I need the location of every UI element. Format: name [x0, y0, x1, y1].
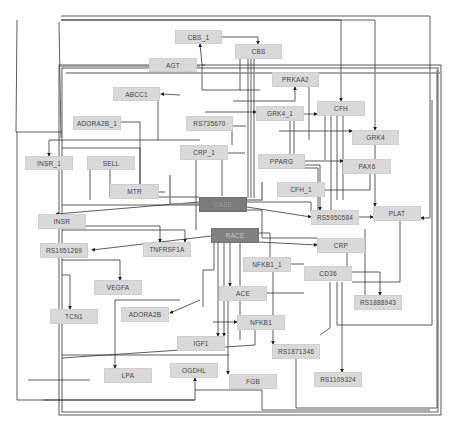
node-adora2b-1[interactable]: ADORA2B_1 — [73, 116, 121, 130]
node-mtr[interactable]: MTR — [110, 184, 159, 199]
node-fgb[interactable]: FGB — [229, 374, 277, 389]
node-rs1888943[interactable]: RS1888943 — [354, 295, 402, 310]
node-label: TNFRSF1A — [149, 246, 184, 253]
node-ace[interactable]: ACE — [219, 286, 267, 301]
node-label: OGDHL — [182, 367, 206, 374]
node-tnfrsf1a[interactable]: TNFRSF1A — [143, 242, 191, 257]
node-label: RS1888943 — [360, 299, 396, 306]
node-lpa[interactable]: LPA — [104, 368, 152, 383]
node-rs5950584[interactable]: RS5950584 — [311, 210, 359, 225]
node-sell[interactable]: SELL — [87, 156, 135, 170]
network-diagram: CBS_1CBSAGTPRKAA2ABCC1CFHADORA2B_1RS7356… — [0, 0, 455, 424]
node-abcc1[interactable]: ABCC1 — [113, 87, 160, 101]
node-case[interactable]: CASE — [199, 197, 247, 212]
node-rs1951269[interactable]: RS1951269 — [40, 243, 88, 258]
node-label: INSR_1 — [37, 160, 61, 167]
node-label: PPARG — [270, 158, 293, 165]
node-label: MTR — [127, 188, 142, 195]
node-label: NFKB1_1 — [252, 261, 282, 268]
node-label: PLAT — [389, 210, 406, 217]
node-label: PAX6 — [359, 163, 376, 170]
node-label: ACE — [236, 290, 250, 297]
node-label: CRP_1 — [193, 149, 215, 156]
node-label: FGB — [246, 378, 260, 385]
node-label: CRP — [334, 242, 348, 249]
node-grk4[interactable]: GRK4 — [352, 130, 399, 145]
node-cd36[interactable]: CD36 — [304, 266, 352, 281]
node-label: GRK4_1 — [267, 110, 293, 117]
node-label: RACE — [226, 232, 245, 239]
node-label: CBS_1 — [188, 34, 210, 41]
node-cbs[interactable]: CBS — [235, 44, 282, 59]
node-agt[interactable]: AGT — [149, 58, 197, 72]
node-ogdhl[interactable]: OGDHL — [170, 363, 218, 378]
node-label: RS1871346 — [278, 348, 314, 355]
node-label: PRKAA2 — [282, 76, 309, 83]
node-nfkb1-1[interactable]: NFKB1_1 — [243, 257, 291, 272]
node-race[interactable]: RACE — [211, 228, 259, 243]
node-rs1109324[interactable]: RS1109324 — [314, 372, 362, 387]
node-tcn1[interactable]: TCN1 — [50, 309, 98, 324]
node-label: CD36 — [319, 270, 336, 277]
node-label: VEGFA — [107, 284, 130, 291]
node-pparg[interactable]: PPARG — [258, 154, 305, 169]
node-crp-1[interactable]: CRP_1 — [180, 145, 228, 160]
node-insr[interactable]: INSR — [38, 214, 86, 229]
node-label: ADORA2B — [129, 311, 161, 318]
node-label: RS5950584 — [317, 214, 353, 221]
node-nfkb1[interactable]: NFKB1 — [237, 315, 285, 330]
node-plat[interactable]: PLAT — [373, 206, 421, 221]
node-cfh-1[interactable]: CFH_1 — [277, 182, 325, 197]
node-label: ADORA2B_1 — [77, 120, 117, 127]
node-label: TCN1 — [65, 313, 83, 320]
node-cfh[interactable]: CFH — [317, 101, 365, 116]
node-label: SELL — [103, 160, 120, 167]
node-rs1871346[interactable]: RS1871346 — [272, 344, 320, 359]
node-rs735670[interactable]: RS735670 — [186, 116, 233, 131]
node-label: GRK4 — [366, 134, 385, 141]
node-label: RS735670 — [193, 120, 225, 127]
node-label: RS1109324 — [320, 376, 356, 383]
node-label: NFKB1 — [250, 319, 272, 326]
node-insr-1[interactable]: INSR_1 — [25, 156, 73, 170]
node-cbs-1[interactable]: CBS_1 — [175, 30, 222, 44]
node-adora2b[interactable]: ADORA2B — [121, 307, 169, 322]
node-label: RS1951269 — [46, 247, 82, 254]
node-label: CASE — [214, 201, 233, 208]
node-vegfa[interactable]: VEGFA — [94, 280, 142, 295]
node-label: LPA — [122, 372, 134, 379]
node-crp[interactable]: CRP — [317, 238, 365, 253]
node-label: IGF1 — [193, 340, 208, 347]
node-label: ABCC1 — [125, 91, 148, 98]
node-pax6[interactable]: PAX6 — [343, 159, 391, 174]
node-label: INSR — [54, 218, 70, 225]
node-label: AGT — [166, 62, 180, 69]
node-label: CFH_1 — [290, 186, 312, 193]
node-label: CBS — [252, 48, 266, 55]
node-prkaa2[interactable]: PRKAA2 — [272, 72, 319, 87]
node-igf1[interactable]: IGF1 — [177, 336, 225, 351]
node-grk4-1[interactable]: GRK4_1 — [256, 106, 304, 121]
node-label: CFH — [334, 105, 348, 112]
